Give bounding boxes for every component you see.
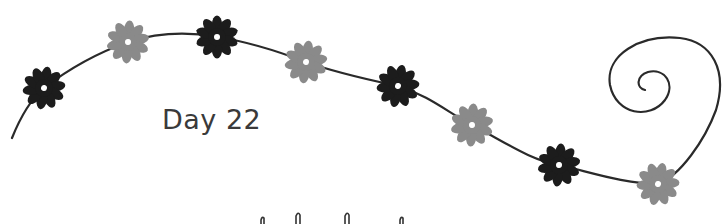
flower-light-1 <box>104 19 152 66</box>
flower-light-3 <box>448 102 495 148</box>
flower-dark-3 <box>372 60 424 111</box>
flower-dark-4 <box>535 141 583 188</box>
flower-dark-1 <box>19 63 70 113</box>
flower-dark-2 <box>195 16 239 59</box>
decorative-vine-artwork <box>0 0 725 224</box>
flower-light-2 <box>281 38 331 87</box>
handwriting-fragment <box>0 196 725 224</box>
day-label: Day 22 <box>162 104 261 135</box>
